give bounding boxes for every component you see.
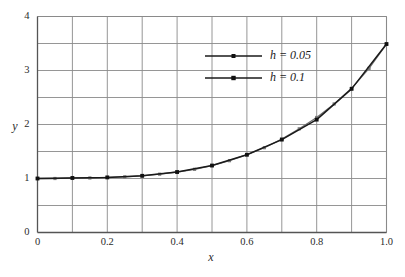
data-point-marker [350,87,354,91]
legend-label-h-01: h = 0.1 [270,70,305,85]
data-point-marker [71,176,75,180]
data-point-marker [280,138,284,142]
gridlines-group [38,17,387,233]
legend-marker-sample-0 [232,54,236,58]
data-point-marker [140,174,144,178]
y-tick-label: 2 [12,118,30,129]
data-point-marker [105,176,109,180]
data-point-marker [36,177,40,181]
x-tick-label: 0.6 [232,236,262,247]
y-tick-label: 1 [12,172,30,183]
legend-marker-sample-1 [231,76,235,80]
figure-container: y x 01234 00.20.40.60.81.0 h = 0.05 h = … [0,0,405,277]
legend-label-h-005: h = 0.05 [270,48,311,63]
x-tick-label: 1.0 [372,236,402,247]
data-point-marker [175,170,179,174]
data-point-marker [210,164,214,168]
x-tick-label: 0.4 [162,236,192,247]
data-point-marker [315,118,319,122]
legend-sample-group [205,54,262,80]
x-tick-label: 0 [23,236,53,247]
x-tick-label: 0.8 [302,236,332,247]
data-point-marker [385,42,389,46]
y-tick-label: 3 [12,64,30,75]
data-point-marker [245,153,249,157]
chart-canvas [0,0,405,277]
page-margin-strip [0,268,405,277]
y-tick-label: 4 [12,10,30,21]
x-tick-label: 0.2 [92,236,122,247]
x-axis-label: x [204,250,218,265]
